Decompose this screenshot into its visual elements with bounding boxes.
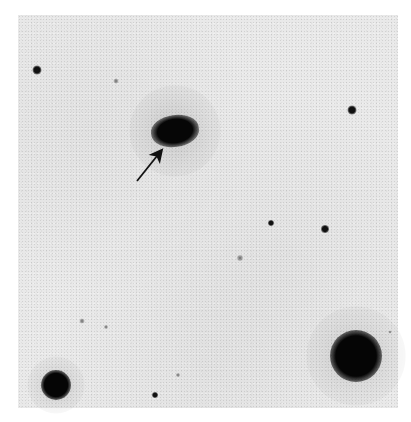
star-10 — [237, 255, 243, 261]
star-4 — [348, 106, 357, 115]
star-6 — [268, 220, 274, 226]
star-12 — [176, 373, 180, 377]
star-7 — [152, 392, 158, 398]
star-11 — [104, 325, 108, 329]
star-13 — [389, 331, 392, 334]
star-8 — [114, 79, 119, 84]
star-1 — [330, 330, 382, 382]
star-5 — [321, 225, 329, 233]
star-9 — [80, 319, 85, 324]
star-2 — [41, 370, 71, 400]
star-3 — [33, 66, 42, 75]
